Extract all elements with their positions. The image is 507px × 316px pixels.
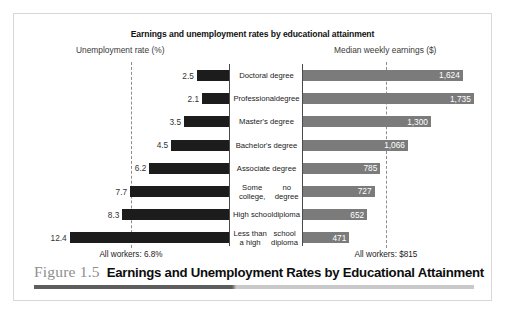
- earnings-bar-group: 1,735: [303, 87, 491, 110]
- unemployment-value-label: 12.4: [51, 233, 67, 243]
- chart-row: 7.7Some college,no degree727: [14, 180, 491, 203]
- earnings-bar: 727: [303, 186, 375, 197]
- category-label: Associate degree: [231, 157, 302, 180]
- earnings-bar-group: 652: [303, 203, 491, 226]
- figure-caption-row: Figure 1.5 Earnings and Unemployment Rat…: [34, 263, 484, 281]
- category-label-line1: Associate degree: [237, 164, 296, 173]
- unemployment-bar-group: 2.1: [14, 87, 229, 110]
- unemployment-value-label: 8.3: [108, 210, 120, 220]
- earnings-bar: 652: [303, 209, 367, 220]
- earnings-bar-group: 471: [303, 226, 491, 249]
- category-label-line2: diploma: [273, 210, 300, 219]
- earnings-bar-group: 1,066: [303, 134, 491, 157]
- figure-number: Figure 1.5: [34, 263, 100, 281]
- unemployment-bar: [197, 70, 229, 81]
- left-average-note: All workers: 6.8%: [99, 250, 162, 259]
- chart-area: Earnings and unemployment rates by educa…: [14, 14, 491, 259]
- chart-title: Earnings and unemployment rates by educa…: [14, 29, 491, 39]
- category-label: Bachelor's degree: [231, 134, 302, 157]
- unemployment-bar: [184, 116, 229, 127]
- chart-row: 6.2Associate degree785: [14, 157, 491, 180]
- category-label-line1: Professional: [233, 94, 275, 103]
- category-label: Doctoral degree: [231, 64, 302, 87]
- unemployment-value-label: 2.1: [187, 94, 199, 104]
- unemployment-value-label: 2.5: [182, 71, 194, 81]
- unemployment-bar: [171, 140, 229, 151]
- unemployment-value-label: 6.2: [135, 163, 147, 173]
- earnings-bar: 1,300: [303, 116, 431, 127]
- unemployment-bar: [130, 186, 229, 197]
- earnings-bar-group: 727: [303, 180, 491, 203]
- earnings-value-label: 785: [363, 164, 377, 172]
- category-label-line1: Master's degree: [239, 117, 294, 126]
- earnings-value-label: 1,300: [407, 118, 428, 126]
- unemployment-bar-group: 3.5: [14, 110, 229, 133]
- earnings-bar: 1,066: [303, 140, 408, 151]
- unemployment-bar: [202, 93, 229, 104]
- unemployment-bar-group: 8.3: [14, 203, 229, 226]
- chart-row: 4.5Bachelor's degree1,066: [14, 134, 491, 157]
- unemployment-bar-group: 2.5: [14, 64, 229, 87]
- earnings-bar-group: 785: [303, 157, 491, 180]
- category-label-line1: Doctoral degree: [239, 71, 294, 80]
- category-label: Professionaldegree: [231, 87, 302, 110]
- category-label-line1: Less than a high: [232, 229, 268, 247]
- unemployment-value-label: 3.5: [170, 117, 182, 127]
- unemployment-bar-group: 12.4: [14, 226, 229, 249]
- category-label-line2: no degree: [272, 183, 301, 201]
- chart-row: 3.5Master's degree1,300: [14, 110, 491, 133]
- category-label: Some college,no degree: [231, 180, 302, 203]
- chart-row: 2.5Doctoral degree1,624: [14, 64, 491, 87]
- category-label-line1: Some college,: [232, 183, 272, 201]
- caption-rule: [34, 285, 474, 289]
- chart-row: 2.1Professionaldegree1,735: [14, 87, 491, 110]
- chart-row: 8.3High schooldiploma652: [14, 203, 491, 226]
- earnings-bar: 471: [303, 232, 349, 243]
- category-label-line1: Bachelor's degree: [236, 141, 298, 150]
- unemployment-value-label: 4.5: [157, 140, 169, 150]
- left-axis-title: Unemployment rate (%): [76, 45, 164, 55]
- figure-caption-block: Figure 1.5 Earnings and Unemployment Rat…: [14, 259, 491, 300]
- unemployment-value-label: 7.7: [116, 187, 128, 197]
- unemployment-bar-group: 4.5: [14, 134, 229, 157]
- right-average-note: All workers: $815: [355, 250, 418, 259]
- category-label: Less than a highschool diploma: [231, 226, 302, 249]
- unemployment-bar: [149, 163, 229, 174]
- chart-row: 12.4Less than a highschool diploma471: [14, 226, 491, 249]
- earnings-bar: 785: [303, 163, 380, 174]
- figure-frame: Earnings and unemployment rates by educa…: [13, 13, 492, 301]
- unemployment-bar: [122, 209, 229, 220]
- category-label: Master's degree: [231, 110, 302, 133]
- figure-caption-title: Earnings and Unemployment Rates by Educa…: [107, 265, 484, 280]
- earnings-value-label: 1,066: [384, 141, 405, 149]
- category-label-line1: High school: [233, 210, 273, 219]
- earnings-value-label: 471: [333, 234, 347, 242]
- earnings-bar-group: 1,624: [303, 64, 491, 87]
- earnings-value-label: 727: [358, 187, 372, 195]
- earnings-bar: 1,624: [303, 70, 463, 81]
- unemployment-bar: [70, 232, 229, 243]
- right-axis-title: Median weekly earnings ($): [334, 45, 436, 55]
- unemployment-bar-group: 7.7: [14, 180, 229, 203]
- earnings-value-label: 652: [350, 211, 364, 219]
- earnings-value-label: 1,735: [450, 95, 471, 103]
- category-label-line2: degree: [276, 94, 300, 103]
- earnings-bar-group: 1,300: [303, 110, 491, 133]
- earnings-value-label: 1,624: [439, 71, 460, 79]
- category-label-line2: school diploma: [268, 229, 301, 247]
- earnings-bar: 1,735: [303, 93, 474, 104]
- category-label: High schooldiploma: [231, 203, 302, 226]
- unemployment-bar-group: 6.2: [14, 157, 229, 180]
